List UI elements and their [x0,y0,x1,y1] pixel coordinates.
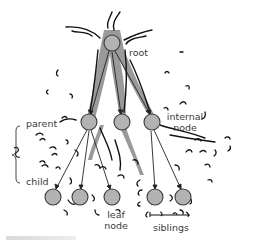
label-parent: parent [26,118,57,129]
label-root: root [129,47,148,58]
siblings-connector [150,212,190,217]
label-leaf-node: leaf node [102,209,130,231]
label-leaf-line2: node [102,220,130,231]
node-leaf-2 [72,189,88,205]
brace-curl [14,147,20,157]
label-siblings: siblings [153,222,189,233]
node-leaf-5 [175,189,191,205]
label-child: child [26,176,49,187]
label-internal-node: internal node [164,111,206,133]
node-leaf-1 [45,189,61,205]
tree-diagram: root parent child internal node leaf nod… [0,0,255,246]
node-internal-3 [144,114,160,130]
node-leaf-4 [147,189,163,205]
node-internal-2 [114,114,130,130]
node-leaf-3 [104,189,120,205]
label-leaf-line1: leaf [102,209,130,220]
node-internal-1 [81,114,97,130]
caption-placeholder [6,236,76,240]
label-internal-line2: node [164,122,206,133]
node-root [104,35,120,51]
label-internal-line1: internal [164,111,206,122]
